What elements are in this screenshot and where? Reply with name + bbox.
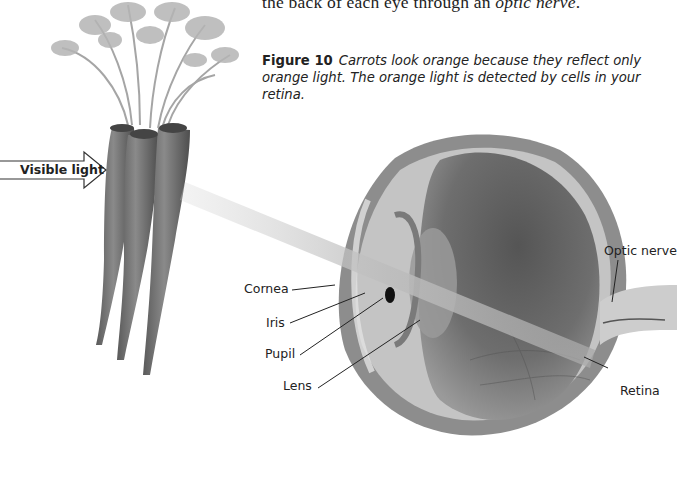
label-optic-nerve: Optic nerve bbox=[604, 243, 677, 258]
label-lens: Lens bbox=[283, 378, 312, 393]
carrot-foliage bbox=[51, 2, 239, 67]
carrots bbox=[96, 123, 190, 375]
label-cornea: Cornea bbox=[244, 281, 289, 296]
visible-light-label: Visible light bbox=[20, 162, 104, 177]
label-pupil: Pupil bbox=[265, 346, 295, 361]
label-iris: Iris bbox=[266, 315, 285, 330]
label-retina: Retina bbox=[620, 383, 660, 398]
eye-carrot-illustration bbox=[0, 0, 677, 479]
